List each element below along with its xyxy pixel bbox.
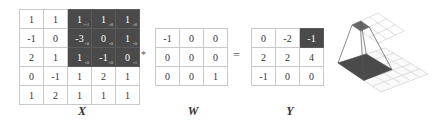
input-cell: 1 [20, 10, 44, 29]
kernel-row: 000 [156, 48, 228, 67]
output-cell-value: -1 [307, 33, 315, 44]
output-row: 0-2-1 [252, 29, 324, 48]
kernel-cell-value: -1 [163, 33, 171, 44]
input-cell-value: 2 [101, 71, 106, 82]
input-cell: 1 [20, 86, 44, 105]
kernel-cell: 0 [156, 67, 180, 86]
input-cell-weight: ×1 [133, 61, 137, 65]
receptive-field-illustration [330, 0, 439, 100]
input-cell-value: -3 [75, 33, 83, 44]
input-cell-value: 0 [29, 71, 34, 82]
input-cell: -1 [20, 29, 44, 48]
input-cell: 1×-1 [68, 10, 92, 29]
kernel-cell: 0 [180, 29, 204, 48]
output-cell: 0 [252, 29, 276, 48]
input-cell-value: 1 [125, 33, 130, 44]
input-row: 0-1121 [20, 67, 140, 86]
kernel-cell: 0 [204, 29, 228, 48]
input-cell-value: -1 [27, 33, 35, 44]
output-cell: 0 [276, 67, 300, 86]
input-label: X [78, 104, 86, 119]
kernel-cell-value: 0 [213, 52, 218, 63]
input-cell-value: 1 [53, 52, 58, 63]
kernel-cell: 0 [180, 48, 204, 67]
output-cell-value: 0 [285, 71, 290, 82]
kernel-label: W [188, 104, 199, 119]
input-cell-value: 1 [125, 71, 130, 82]
output-cell: 0 [300, 67, 324, 86]
output-cell-value: 2 [285, 52, 290, 63]
input-cell-value: 1 [77, 14, 82, 25]
output-cell-value: 4 [309, 52, 314, 63]
input-cell-value: 1 [101, 14, 106, 25]
input-cell-weight: ×-1 [83, 23, 89, 27]
input-cell-value: 2 [29, 52, 34, 63]
input-cell-weight: ×0 [133, 42, 137, 46]
output-label: Y [286, 104, 293, 119]
input-cell-weight: ×0 [133, 23, 137, 27]
input-cell: 1 [116, 67, 140, 86]
kernel-cell: 0 [180, 67, 204, 86]
kernel-cell: -1 [156, 29, 180, 48]
input-cell: 0 [20, 67, 44, 86]
kernel-cell: 1 [204, 67, 228, 86]
output-row: -100 [252, 67, 324, 86]
input-cell-value: 1 [77, 52, 82, 63]
output-cell: 4 [300, 48, 324, 67]
input-cell: -1 [44, 67, 68, 86]
input-cell-value: 0 [101, 33, 106, 44]
kernel-cell-value: 0 [213, 33, 218, 44]
input-row: 12111 [20, 86, 140, 105]
input-cell-weight: ×0 [109, 42, 113, 46]
input-row: -10-3×00×01×0 [20, 29, 140, 48]
input-cell-value: 1 [53, 14, 58, 25]
input-cell: 0×1 [116, 48, 140, 67]
input-cell-value: 0 [125, 52, 130, 63]
input-cell-value: 1 [29, 90, 34, 101]
input-cell: 1 [44, 10, 68, 29]
input-cell: 1 [68, 86, 92, 105]
output-cell-value: 0 [309, 71, 314, 82]
input-cell-weight: ×0 [85, 61, 89, 65]
input-row: 111×-11×01×0 [20, 10, 140, 29]
input-cell: 1 [116, 86, 140, 105]
input-cell-value: 1 [125, 14, 130, 25]
input-cell-weight: ×0 [109, 23, 113, 27]
input-cell: 1×0 [116, 10, 140, 29]
kernel-matrix-w: -100000001 [155, 28, 228, 86]
output-cell: -1 [252, 67, 276, 86]
output-cell-value: 0 [261, 33, 266, 44]
output-row: 224 [252, 48, 324, 67]
input-cell-value: 1 [125, 90, 130, 101]
output-cell: -1 [300, 29, 324, 48]
output-cell: 2 [252, 48, 276, 67]
kernel-cell-value: 0 [189, 71, 194, 82]
convolution-operator: * [141, 49, 146, 61]
output-matrix-y: 0-2-1224-100 [251, 28, 324, 86]
input-cell-value: 1 [101, 90, 106, 101]
output-cell-value: 2 [261, 52, 266, 63]
kernel-row: -100 [156, 29, 228, 48]
input-cell-value: 1 [77, 71, 82, 82]
input-cell: 0 [44, 29, 68, 48]
kernel-cell-value: 0 [165, 52, 170, 63]
kernel-cell: 0 [156, 48, 180, 67]
input-cell: 1 [68, 67, 92, 86]
kernel-cell-value: 0 [165, 71, 170, 82]
input-cell-value: 0 [53, 33, 58, 44]
input-cell: 1×0 [92, 10, 116, 29]
input-cell: 1 [44, 48, 68, 67]
input-cell: -3×0 [68, 29, 92, 48]
kernel-cell-value: 0 [189, 33, 194, 44]
input-cell: 2 [20, 48, 44, 67]
equals-operator: = [233, 49, 240, 61]
input-cell: -1×0 [92, 48, 116, 67]
input-cell-value: -1 [51, 71, 59, 82]
output-cell-value: -2 [283, 33, 291, 44]
input-cell: 1×0 [68, 48, 92, 67]
output-cell: -2 [276, 29, 300, 48]
input-cell: 1×0 [116, 29, 140, 48]
kernel-cell: 0 [204, 48, 228, 67]
input-row: 211×0-1×00×1 [20, 48, 140, 67]
input-cell: 1 [92, 86, 116, 105]
